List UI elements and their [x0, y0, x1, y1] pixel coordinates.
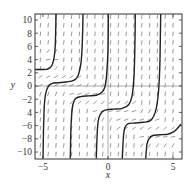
slope-segment [165, 117, 166, 121]
slope-segment [87, 152, 88, 156]
slope-segment [79, 32, 80, 36]
slope-segment [86, 101, 89, 104]
slope-segment [64, 135, 65, 139]
slope-segment [157, 152, 158, 156]
slope-segment [110, 40, 111, 44]
y-tick-label: 6 [27, 42, 32, 52]
slope-segment [48, 135, 49, 139]
slope-segment [149, 40, 150, 44]
slope-segment [142, 152, 143, 156]
slope-segment [87, 135, 88, 139]
slope-segment [118, 32, 119, 36]
slope-segment [165, 109, 166, 113]
slope-segment [149, 32, 150, 36]
slope-segment [149, 152, 150, 156]
slope-segment [79, 40, 80, 44]
slope-segment [64, 14, 65, 18]
slope-segment [118, 14, 119, 18]
slope-segment [126, 135, 127, 139]
slope-segment [165, 152, 166, 156]
slope-segment [87, 14, 88, 18]
slope-segment [142, 75, 143, 79]
slope-segment [101, 101, 105, 104]
slope-segment [71, 143, 72, 147]
slope-segment [163, 136, 167, 137]
slope-segment [85, 93, 89, 94]
slope-segment [116, 110, 120, 111]
slope-segment [165, 57, 166, 61]
slope-segment [95, 66, 96, 70]
slope-segment [87, 117, 88, 121]
slope-segment [110, 75, 111, 79]
slope-segment [134, 40, 135, 44]
slope-segment [142, 57, 143, 61]
slope-segment [141, 109, 143, 113]
slope-segment [71, 40, 72, 44]
slope-segment [124, 119, 128, 120]
slope-segment [40, 49, 41, 53]
slope-segment [165, 49, 166, 53]
y-axis-label: y [10, 79, 16, 90]
slope-segment [142, 40, 143, 44]
slope-segment [171, 127, 174, 130]
slope-segment [40, 126, 41, 130]
slope-segment [102, 118, 104, 122]
slope-segment [79, 152, 80, 156]
slope-segment [95, 143, 96, 147]
slope-segment [149, 14, 150, 18]
slope-segment [64, 40, 65, 44]
slope-segment [126, 23, 127, 27]
slope-segment [40, 23, 41, 27]
slope-segment [117, 127, 121, 130]
slope-segment [62, 76, 66, 78]
slope-segment [63, 92, 64, 96]
slope-segment [95, 135, 96, 139]
slope-segment [118, 75, 119, 79]
slope-segment [157, 40, 158, 44]
slope-segment [173, 23, 174, 27]
slope-segment [64, 143, 65, 147]
slope-segment [126, 57, 127, 61]
slope-segment [149, 57, 150, 61]
slope-segment [40, 117, 41, 121]
slope-segment [157, 14, 158, 18]
slope-segment [103, 23, 104, 27]
slope-segment [40, 100, 41, 104]
slope-segment [165, 66, 166, 70]
slope-segment [126, 152, 127, 156]
slope-segment [95, 32, 96, 36]
slope-segment [116, 119, 120, 120]
slope-segment [71, 152, 72, 156]
y-tick-label: −8 [22, 134, 32, 144]
slope-segment [164, 144, 166, 148]
slope-segment [110, 66, 111, 70]
slope-segment [64, 152, 65, 156]
slope-segment [149, 92, 150, 96]
slope-segment [173, 152, 174, 156]
slope-segment [149, 23, 150, 27]
slope-segment [165, 92, 166, 96]
slope-segment [140, 119, 144, 120]
slope-segment [40, 143, 41, 147]
slope-segment [173, 83, 174, 87]
slope-segment [157, 49, 158, 53]
slope-segment [48, 117, 49, 121]
slope-segment [103, 57, 104, 61]
slope-segment [149, 75, 150, 79]
slope-segment [134, 152, 135, 156]
slope-segment [126, 49, 127, 53]
slope-segment [71, 66, 72, 70]
slope-segment [79, 14, 80, 18]
slope-segment [64, 57, 65, 61]
slope-segment [95, 57, 96, 61]
slope-segment [156, 144, 158, 148]
slope-segment [71, 32, 72, 36]
slope-segment [157, 66, 158, 70]
slope-segment [142, 32, 143, 36]
slope-segment [110, 152, 111, 156]
slope-segment [56, 135, 57, 139]
slope-segment [118, 143, 119, 147]
slope-segment [124, 101, 128, 104]
slope-segment [157, 32, 158, 36]
direction-field-chart: 1086420−24−6−8−10−505 x y [0, 0, 192, 186]
